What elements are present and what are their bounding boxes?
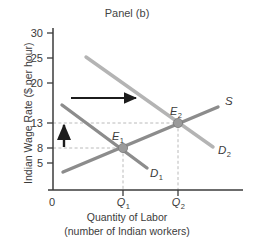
y-tick-label-8: 8: [17, 143, 43, 154]
x-tick-label-q1: Q1: [108, 197, 138, 208]
curve-label-demand-1-sub: 1: [159, 173, 163, 182]
x-origin-label: 0: [42, 197, 62, 208]
curve-label-supply: S: [225, 96, 233, 108]
x-axis-ticks: [123, 190, 178, 196]
equilibrium-label-e1-text: E: [112, 130, 119, 142]
x-tick-label-q2: Q2: [163, 197, 193, 208]
curve-label-demand-2-text: D: [218, 144, 226, 156]
equilibrium-label-e1: E1: [112, 131, 124, 142]
chart-title: Panel (b): [0, 8, 254, 19]
curve-label-demand-1: D1: [150, 168, 162, 180]
y-tick-label-30: 30: [17, 28, 43, 39]
curve-demand-1: [62, 105, 147, 168]
economics-supply-demand-chart: Panel (b) Indian Wage Rate ($ per hour) …: [0, 0, 254, 247]
y-tick-label-20: 20: [17, 78, 43, 89]
y-tick-label-5: 5: [17, 158, 43, 169]
curve-label-demand-1-text: D: [150, 167, 158, 179]
y-tick-label-25: 25: [17, 53, 43, 64]
x-tick-label-q1-text: Q: [117, 196, 126, 208]
x-tick-label-q2-text: Q: [172, 196, 181, 208]
y-tick-label-13: 13: [17, 118, 43, 129]
curve-demand-2: [86, 57, 213, 147]
y-axis-ticks: [47, 33, 53, 163]
x-axis-title-line2: (number of Indian workers): [0, 226, 254, 237]
equilibrium-label-e2-text: E: [170, 105, 177, 117]
curve-label-demand-2: D2: [218, 145, 230, 157]
x-tick-label-q1-sub: 1: [126, 202, 130, 211]
x-axis-title-line1: Quantity of Labor: [0, 212, 254, 223]
equilibrium-label-e2: E2: [170, 106, 182, 117]
equilibrium-label-e2-sub: 2: [178, 111, 182, 120]
x-tick-label-q2-sub: 2: [181, 202, 185, 211]
curve-label-demand-2-sub: 2: [227, 150, 231, 159]
equilibrium-label-e1-sub: 1: [120, 136, 124, 145]
